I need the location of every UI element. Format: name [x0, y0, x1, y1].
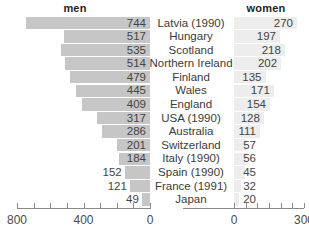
women-panel: 218	[234, 43, 306, 57]
women-panel: 197	[234, 30, 306, 44]
value-label-women: 202	[234, 56, 281, 70]
men-panel: 517	[0, 30, 150, 44]
axis-tick	[292, 203, 293, 208]
chart-row: 121France (1991)32	[0, 179, 309, 193]
country-panel: Spain (1990)	[152, 166, 230, 180]
value-label-men: 479	[127, 70, 146, 84]
country-panel: Finland	[152, 70, 230, 84]
value-label-men: 184	[127, 151, 146, 165]
country-panel: Hungary	[152, 30, 230, 44]
men-panel: 184	[0, 152, 150, 166]
axis-tick-label: 800	[0, 213, 37, 227]
axis-tick	[234, 203, 235, 208]
country-label: Wales	[145, 83, 237, 97]
axis-tick-label: 400	[64, 213, 104, 227]
axis-tick	[34, 203, 35, 208]
country-panel: Switzerland	[152, 138, 230, 152]
value-label-women: 197	[234, 29, 280, 43]
country-label: Italy (1990)	[145, 151, 237, 165]
men-panel: 49	[0, 193, 150, 207]
value-label-women: 56	[234, 151, 260, 165]
axis-tick	[100, 203, 101, 208]
value-label-women: 171	[234, 83, 274, 97]
value-label-women: 218	[234, 43, 285, 57]
country-label: USA (1990)	[145, 111, 237, 125]
axis-tick	[269, 203, 270, 208]
value-label-men: 286	[127, 124, 146, 138]
value-label-women: 111	[234, 124, 260, 138]
country-panel: Latvia (1990)	[152, 16, 230, 30]
value-label-women: 154	[234, 97, 270, 111]
axis-tick-label: 0	[214, 213, 254, 227]
axis-tick	[17, 203, 18, 208]
men-panel: 201	[0, 138, 150, 152]
women-panel: 270	[234, 16, 306, 30]
men-panel: 514	[0, 57, 150, 71]
value-label-women: 32	[234, 179, 260, 193]
men-panel: 409	[0, 98, 150, 112]
country-label: Switzerland	[145, 138, 237, 152]
men-panel: 121	[0, 179, 150, 193]
chart-row: 409England154	[0, 98, 309, 112]
chart-row: 514Northern Ireland202	[0, 57, 309, 71]
men-panel: 317	[0, 111, 150, 125]
axis-tick	[150, 203, 151, 208]
men-panel: 286	[0, 125, 150, 139]
value-label-women: 128	[234, 111, 264, 125]
chart-rows: 744Latvia (1990)270517Hungary197535Scotl…	[0, 16, 309, 206]
value-label-men: 201	[127, 138, 146, 152]
country-label: Australia	[145, 124, 237, 138]
country-label: Hungary	[145, 29, 237, 43]
value-label-women: 135	[234, 70, 266, 84]
country-panel: France (1991)	[152, 179, 230, 193]
country-label: Japan	[145, 192, 237, 206]
chart-row: 201Switzerland57	[0, 138, 309, 152]
women-panel: 57	[234, 138, 306, 152]
chart-header-women: women	[228, 2, 304, 14]
men-panel: 152	[0, 166, 150, 180]
chart-row: 744Latvia (1990)270	[0, 16, 309, 30]
value-label-women: 57	[234, 138, 260, 152]
chart-row: 49Japan20	[0, 193, 309, 207]
value-label-men: 317	[127, 111, 146, 125]
chart-header-men: men	[0, 2, 150, 14]
value-label-men: 514	[127, 56, 146, 70]
value-label-men: 445	[127, 83, 146, 97]
axis-tick-label: 300	[284, 213, 309, 227]
women-panel: 32	[234, 179, 306, 193]
women-panel: 154	[234, 98, 306, 112]
country-panel: Scotland	[152, 43, 230, 57]
men-panel: 744	[0, 16, 150, 30]
axis-tick	[257, 203, 258, 208]
chart-row: 286Australia111	[0, 125, 309, 139]
country-label: England	[145, 97, 237, 111]
value-label-men: 409	[127, 97, 146, 111]
axis-tick	[117, 203, 118, 208]
diverging-bar-chart: men women 744Latvia (1990)270517Hungary1…	[0, 0, 309, 237]
value-label-men: 121	[108, 179, 127, 193]
chart-row: 535Scotland218	[0, 43, 309, 57]
country-label: Spain (1990)	[145, 165, 237, 179]
value-label-men: 535	[127, 43, 146, 57]
chart-row: 184Italy (1990)56	[0, 152, 309, 166]
country-panel: Japan	[152, 193, 230, 207]
axis-tick	[84, 203, 85, 208]
women-panel: 128	[234, 111, 306, 125]
country-panel: Northern Ireland	[152, 57, 230, 71]
value-label-men: 744	[127, 16, 146, 30]
chart-row: 517Hungary197	[0, 30, 309, 44]
axis-line-women	[183, 208, 304, 209]
value-label-men: 517	[127, 29, 146, 43]
chart-row: 317USA (1990)128	[0, 111, 309, 125]
axis-tick	[246, 203, 247, 208]
women-panel: 202	[234, 57, 306, 71]
country-label: France (1991)	[145, 179, 237, 193]
country-label: Scotland	[145, 43, 237, 57]
country-panel: USA (1990)	[152, 111, 230, 125]
chart-row: 479Finland135	[0, 70, 309, 84]
men-panel: 445	[0, 84, 150, 98]
women-panel: 111	[234, 125, 306, 139]
axis-tick	[281, 203, 282, 208]
axis-tick-label: 0	[130, 213, 170, 227]
women-panel: 45	[234, 166, 306, 180]
